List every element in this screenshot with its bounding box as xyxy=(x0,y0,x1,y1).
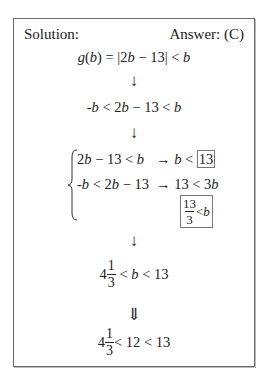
down-arrow-icon: ↓ xyxy=(14,123,254,143)
system-row-2-left: -b < 2b − 13 xyxy=(77,176,149,193)
fraction-13-over-3: 13 3 xyxy=(183,197,196,226)
down-arrow-icon: ↓ xyxy=(14,71,254,91)
equation-absolute-value: g(b) = |2b − 13| < b xyxy=(14,49,254,66)
fraction-one-third: 1 3 xyxy=(105,327,114,358)
answer-label: Answer: (C) xyxy=(169,26,244,43)
system-row-1-right: → b < 13 xyxy=(156,151,215,168)
equation-bounded-b: 4 1 3 < b < 13 xyxy=(14,259,254,290)
down-arrow-icon: ↓ xyxy=(14,231,254,251)
system-row-2-right: → 13 < 3b xyxy=(156,176,219,193)
boxed-lower-bound: 13 3 <b xyxy=(180,195,213,228)
double-down-arrow-icon: ⇓ xyxy=(14,304,254,325)
solution-panel: Solution: Answer: (C) g(b) = |2b − 13| <… xyxy=(13,18,255,367)
solution-label: Solution: xyxy=(24,26,79,43)
equation-compound-inequality: -b < 2b − 13 < b xyxy=(14,99,254,116)
boxed-upper-bound: 13 xyxy=(197,150,216,168)
system-row-1-left: 2b − 13 < b xyxy=(77,151,144,168)
equation-final-check: 4 1 3 < 12 < 13 xyxy=(14,327,254,358)
lower-bound-tail: <b xyxy=(196,204,210,219)
fraction-one-third: 1 3 xyxy=(107,259,116,290)
